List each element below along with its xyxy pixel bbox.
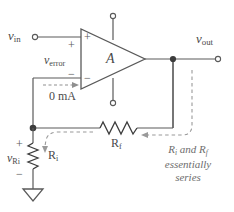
sign-inverting-input: − bbox=[84, 72, 91, 84]
ri-current-dashed-path bbox=[45, 132, 93, 146]
zero-current-arrowhead bbox=[72, 82, 79, 88]
label-v-ri: vRi bbox=[7, 152, 20, 166]
resistor-ri-zigzag bbox=[28, 143, 38, 169]
output-terminal-circle bbox=[215, 56, 220, 61]
label-rf-base: R bbox=[111, 136, 119, 150]
label-v-in-sub: in bbox=[14, 34, 21, 44]
sign-v-error-plus: + bbox=[68, 39, 75, 51]
label-rf: Rf bbox=[111, 137, 122, 151]
label-rf-sub: f bbox=[119, 142, 122, 151]
label-zero-current: 0 mA bbox=[49, 90, 76, 102]
label-gain-a: A bbox=[106, 52, 115, 66]
annotation-rf-sub: f bbox=[206, 148, 208, 157]
label-v-ri-sub: Ri bbox=[12, 157, 20, 166]
label-v-out: vout bbox=[196, 32, 213, 47]
input-terminal-circle bbox=[32, 34, 37, 39]
label-v-error: verror bbox=[44, 54, 65, 68]
annotation-series-note: Ri and Rf essentially series bbox=[146, 143, 230, 184]
label-ri-sub: i bbox=[56, 154, 58, 163]
annotation-line-2: essentially bbox=[165, 158, 211, 170]
annotation-line-1: Ri and Rf bbox=[168, 143, 208, 155]
annotation-and-text: and R bbox=[177, 143, 206, 155]
resistor-rf-zigzag bbox=[100, 122, 137, 134]
sign-noninverting-input: + bbox=[84, 31, 91, 43]
circuit-diagram: vin vout verror A 0 mA Rf Ri vRi + + − −… bbox=[0, 0, 234, 212]
label-v-in: vin bbox=[8, 29, 21, 44]
feedback-current-arrowhead bbox=[141, 132, 148, 138]
label-ri: Ri bbox=[48, 149, 58, 163]
label-ri-base: R bbox=[48, 148, 56, 162]
label-v-error-sub: error bbox=[49, 59, 65, 68]
positive-supply-terminal-circle bbox=[110, 13, 115, 18]
sign-v-ri-minus: − bbox=[16, 168, 23, 180]
negative-supply-terminal-circle bbox=[110, 100, 115, 105]
sign-v-ri-plus: + bbox=[16, 138, 23, 150]
annotation-ri-base: R bbox=[168, 143, 175, 155]
sign-v-error-minus: − bbox=[68, 68, 75, 80]
annotation-line-3: series bbox=[175, 171, 201, 183]
ground-symbol bbox=[23, 189, 43, 201]
label-v-out-sub: out bbox=[202, 37, 213, 47]
feedback-current-dashed-path bbox=[148, 70, 192, 135]
